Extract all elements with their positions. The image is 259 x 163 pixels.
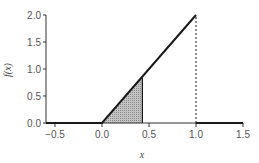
pdf-chart: 0.00.51.01.52.0−0.50.00.51.01.5 x f(x) (0, 0, 259, 163)
y-tick-label: 2.0 (27, 10, 41, 21)
x-tick-label: 1.5 (236, 129, 250, 140)
x-tick-label: 1.0 (189, 129, 203, 140)
series (46, 15, 243, 123)
y-axis-label: f(x) (2, 62, 14, 77)
y-tick-label: 1.0 (27, 64, 41, 75)
x-axis-label: x (139, 149, 145, 160)
y-tick-label: 0.5 (27, 91, 41, 102)
x-tick-label: 0.5 (142, 129, 156, 140)
y-tick-label: 1.5 (27, 37, 41, 48)
x-tick-label: −0.5 (45, 129, 65, 140)
y-tick-label: 0.0 (27, 118, 41, 129)
x-tick-label: 0.0 (95, 129, 109, 140)
